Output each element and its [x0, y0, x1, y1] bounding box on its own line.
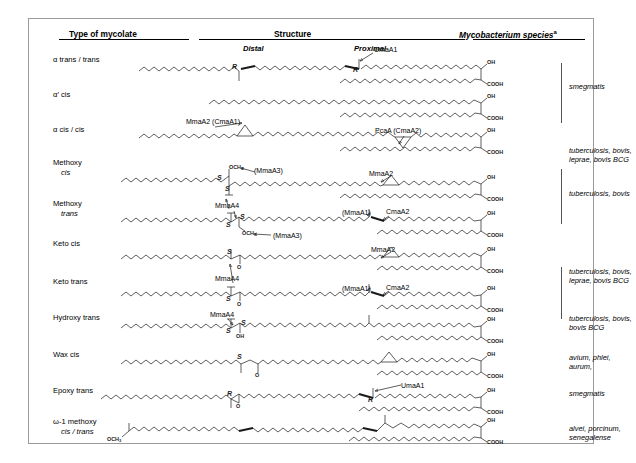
rowlabel-line2: trans: [61, 209, 78, 218]
species-epoxy: smegmatis: [569, 389, 636, 398]
svg-text:O: O: [236, 403, 240, 409]
svg-text:COOH: COOH: [487, 149, 503, 155]
svg-text:O: O: [255, 372, 259, 378]
species-bracket-smegmatis: [561, 63, 562, 123]
enzyme-label-umaa1-alpha: UmaA1: [374, 46, 397, 53]
enzyme-label-mmaa2-methoxy-cis: MmaA2: [369, 170, 393, 177]
structure-hydroxy-trans: S S OH OH COOH: [121, 315, 503, 344]
species-bracket-keto: [561, 267, 562, 319]
svg-text:R: R: [227, 390, 232, 397]
svg-text:COOH: COOH: [487, 338, 503, 344]
enzyme-label-mmaa2-cmaa1: MmaA2 (CmaA1): [186, 118, 240, 125]
svg-text:S: S: [240, 213, 245, 220]
rowlabel-line1: Methoxy: [53, 199, 82, 208]
header-species-footnote-marker: a: [554, 29, 557, 35]
species-omega-1-methoxy: alvei, porcinum,senegalense: [569, 424, 636, 442]
rowlabel-line1: Keto trans: [53, 277, 88, 286]
rowlabel-omega-1-methoxy: ω-1 methoxy cis / trans: [53, 417, 165, 436]
svg-text:OH: OH: [487, 351, 495, 357]
structure-alpha-cis-cis: OH COOH: [139, 123, 503, 155]
svg-text:OH: OH: [487, 174, 495, 180]
rowlabel-alpha-cis-cis: α cis / cis: [53, 125, 165, 135]
enzyme-label-mmaa2-keto-cis: MmaA2: [371, 246, 395, 253]
species-bracket-methoxy: [561, 169, 562, 224]
rowlabel-line1: Wax cis: [53, 350, 79, 359]
svg-text:COOH: COOH: [487, 81, 503, 87]
structure-wax-cis: S O OH COOH: [121, 351, 503, 379]
svg-text:OH: OH: [487, 246, 495, 252]
enzyme-label-pcaa-cmaa2: PcaA (CmaA2): [375, 127, 421, 134]
svg-text:S: S: [241, 319, 246, 326]
species-methoxy: tuberculosis, bovis: [569, 189, 636, 198]
svg-text:COOH: COOH: [487, 307, 503, 313]
svg-text:OCH3: OCH3: [242, 230, 257, 237]
svg-text:OH: OH: [487, 127, 495, 133]
svg-text:OH: OH: [487, 387, 495, 393]
rowlabel-alpha-prime-cis: α′ cis: [53, 90, 165, 100]
enzyme-label-mmaa1-keto-trans: (MmaA1): [342, 285, 371, 292]
svg-text:R: R: [353, 66, 358, 73]
enzyme-label-mmaa4-keto-cis: MmaA4: [215, 275, 239, 282]
svg-text:COOH: COOH: [487, 115, 503, 121]
svg-text:R: R: [232, 63, 237, 70]
species-wax: avium, phlei,aurum,: [569, 353, 636, 371]
svg-text:OH: OH: [487, 210, 495, 216]
svg-text:OH: OH: [487, 316, 495, 322]
rowlabel-hydroxy-trans: Hydroxy trans: [53, 313, 165, 323]
svg-text:COOH: COOH: [487, 409, 503, 415]
table-header: Type of mycolate Structure Mycobacterium…: [29, 25, 593, 47]
rowlabel-line1: Hydroxy trans: [53, 313, 100, 322]
svg-text:S: S: [217, 174, 222, 181]
rowlabel-methoxy-cis: Methoxy cis: [53, 158, 165, 177]
enzyme-label-cmaa2-methoxy-trans: CmaA2: [386, 208, 409, 215]
species-hydroxy: tuberculosis, bovis,bovis BCG: [569, 314, 636, 332]
label-distal: Distal: [243, 44, 264, 53]
header-rule-structure: [199, 39, 465, 40]
structure-alpha-prime-cis: OH COOH: [209, 93, 503, 121]
svg-text:COOH: COOH: [487, 196, 503, 202]
svg-text:OH: OH: [236, 333, 244, 339]
svg-text:COOH: COOH: [487, 268, 503, 274]
enzyme-label-mmaa4-methoxy: MmaA4: [215, 202, 239, 209]
svg-text:O: O: [237, 301, 241, 307]
svg-text:COOH: COOH: [487, 439, 503, 445]
rowlabel-line1: Epoxy trans: [53, 386, 93, 395]
rowlabel-line1: α cis / cis: [53, 125, 84, 134]
svg-text:S: S: [226, 221, 231, 228]
header-type-of-mycolate: Type of mycolate: [69, 29, 137, 39]
rowlabel-line1: Keto cis: [53, 239, 80, 248]
svg-text:COOH: COOH: [487, 373, 503, 379]
svg-text:OCH3: OCH3: [107, 436, 122, 443]
rowlabel-methoxy-trans: Methoxy trans: [53, 199, 165, 218]
species-keto: tuberculosis, bovis,leprae, bovis BCG: [569, 267, 636, 285]
rowlabel-line1: Methoxy: [53, 158, 82, 167]
enzyme-label-umaa1-epoxy: UmaA1: [401, 382, 424, 389]
rowlabel-line1: ω-1 methoxy: [53, 417, 97, 426]
rowlabel-line1: α trans / trans: [53, 55, 100, 64]
rowlabel-line2: cis / trans: [61, 427, 94, 436]
enzyme-label-cmaa2-keto-trans: CmaA2: [386, 284, 409, 291]
svg-text:S: S: [225, 185, 230, 192]
svg-text:OH: OH: [487, 417, 495, 423]
svg-text:R: R: [368, 396, 373, 403]
svg-text:S: S: [226, 295, 231, 302]
enzyme-label-mmaa3-methoxy-trans: (MmaA3): [273, 232, 302, 239]
structure-alpha-trans-trans: R R OH COOH: [139, 53, 503, 87]
chemical-structures-layer: R R OH COOH OH COOH: [29, 19, 595, 445]
structure-keto-cis: S O OH COOH: [121, 246, 503, 283]
rowlabel-line1: α′ cis: [53, 90, 70, 99]
structure-keto-trans: S O OH COOH: [121, 284, 503, 313]
svg-text:S: S: [226, 327, 231, 334]
enzyme-label-mmaa3-methoxy-cis: (MmaA3): [254, 167, 283, 174]
header-structure: Structure: [274, 29, 311, 39]
rowlabel-wax-cis: Wax cis: [53, 350, 165, 360]
svg-text:S: S: [227, 248, 232, 255]
header-rule-species: [473, 39, 585, 40]
species-alpha-cis-cis: tuberculosis, bovis,leprae, bovis BCG: [569, 146, 636, 164]
rowlabel-keto-trans: Keto trans: [53, 277, 165, 287]
rowlabel-epoxy-trans: Epoxy trans: [53, 386, 165, 396]
structure-methoxy-trans: S S OCH3 OH COOH: [121, 209, 503, 238]
svg-text:OH: OH: [487, 285, 495, 291]
svg-text:OH: OH: [487, 59, 495, 65]
figure-panel: Type of mycolate Structure Mycobacterium…: [28, 18, 594, 444]
